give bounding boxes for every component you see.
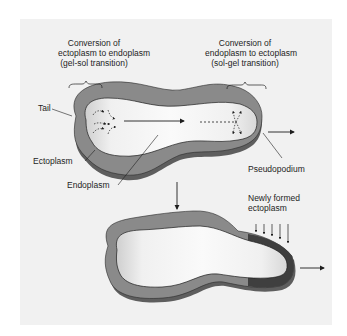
caption-gel-sol-line1: Conversion of	[58, 38, 130, 48]
caption-gel-sol-line2: ectoplasm to endoplasm	[58, 48, 130, 58]
caption-gel-sol: Conversion of ectoplasm to endoplasm (ge…	[58, 38, 130, 68]
caption-sol-gel: Conversion of endoplasm to ectoplasm (so…	[205, 38, 285, 68]
caption-sol-gel-line3: (sol-gel transition)	[205, 58, 285, 68]
label-newly-formed-line1: Newly formed	[248, 193, 300, 203]
label-newly-formed-line2: ectoplasm	[248, 203, 300, 213]
pseudopodium-leader	[263, 133, 282, 158]
bottom-cell	[105, 211, 324, 303]
tail-leader	[52, 109, 72, 116]
caption-sol-gel-line2: endoplasm to ectoplasm	[205, 48, 285, 58]
label-pseudopodium: Pseudopodium	[248, 164, 305, 174]
label-endoplasm: Endoplasm	[67, 180, 110, 190]
label-ectoplasm: Ectoplasm	[33, 156, 73, 166]
label-tail: Tail	[38, 103, 51, 113]
caption-gel-sol-line3: (gel-sol transition)	[58, 58, 130, 68]
label-newly-formed-ectoplasm: Newly formed ectoplasm	[248, 193, 300, 213]
caption-sol-gel-line1: Conversion of	[205, 38, 285, 48]
